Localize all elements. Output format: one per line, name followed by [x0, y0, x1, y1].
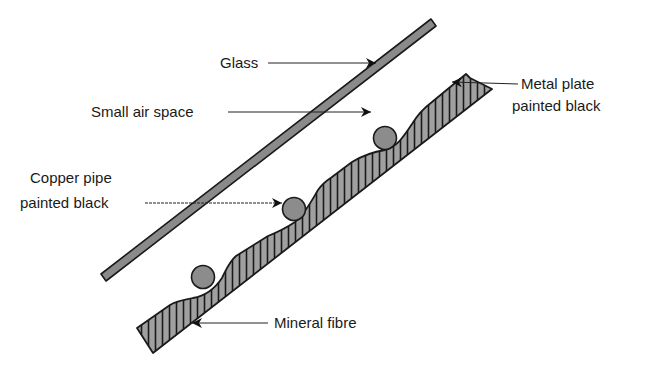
mineral-fibre-label: Mineral fibre [274, 314, 357, 332]
metal-plate-label-line1: Metal plate [521, 75, 594, 93]
metal-plate-label-line2: painted black [512, 97, 600, 115]
copper-pipe-middle [283, 198, 306, 221]
copper-pipe-top [374, 127, 397, 150]
glass-label: Glass [220, 54, 258, 72]
copper-pipe-label-line1: Copper pipe [30, 169, 112, 187]
air-space-label: Small air space [91, 103, 194, 121]
copper-pipe-bottom [192, 266, 215, 289]
copper-pipe-label-line2: painted black [20, 194, 108, 212]
